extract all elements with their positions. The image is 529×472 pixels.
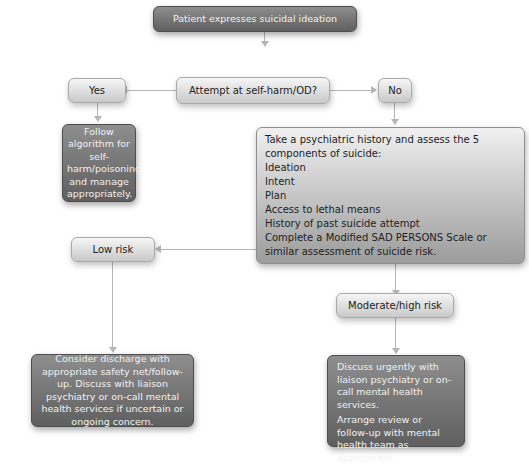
moderate-risk-label: Moderate/high risk: [337, 299, 453, 312]
start-label: Patient expresses suicidal ideation: [154, 13, 356, 26]
decision-node: Attempt at self-harm/OD?: [176, 77, 330, 104]
yes-action-node: Follow algorithm for self-harm/poisoning…: [62, 124, 136, 202]
moderate-risk-node: Moderate/high risk: [336, 293, 454, 318]
low-risk-action-node: Consider discharge with appropriate safe…: [31, 354, 194, 427]
component-past-attempt: History of past suicide attempt: [265, 217, 516, 231]
connector-assessment-moderate: [395, 264, 396, 291]
low-risk-action-text: Consider discharge with appropriate safe…: [40, 353, 185, 428]
yes-node: Yes: [68, 78, 126, 103]
moderate-risk-action-node: Discuss urgently with liaison psychiatry…: [327, 355, 465, 447]
no-node: No: [378, 78, 412, 103]
connector-yes-action: [97, 103, 98, 117]
moderate-action-text-2: Arrange review or follow-up with mental …: [337, 414, 455, 464]
connector-low-action: [112, 262, 113, 348]
arrow-icon: [261, 41, 269, 47]
connector-decision-yes: [126, 90, 176, 91]
component-intent: Intent: [265, 175, 516, 189]
no-label: No: [379, 84, 411, 97]
arrow-icon: [371, 86, 377, 94]
component-plan: Plan: [265, 189, 516, 203]
assessment-intro: Take a psychiatric history and assess th…: [265, 133, 516, 161]
arrow-icon: [94, 116, 102, 122]
start-node: Patient expresses suicidal ideation: [153, 6, 357, 32]
connector-decision-no: [330, 90, 372, 91]
connector-no-assessment: [394, 103, 395, 120]
low-risk-node: Low risk: [71, 237, 155, 262]
connector-assessment-low: [160, 249, 256, 250]
yes-label: Yes: [69, 84, 125, 97]
assessment-node: Take a psychiatric history and assess th…: [256, 127, 525, 264]
decision-label: Attempt at self-harm/OD?: [177, 84, 329, 97]
connector-moderate-action: [395, 318, 396, 349]
component-lethal-means: Access to lethal means: [265, 203, 516, 217]
component-ideation: Ideation: [265, 161, 516, 175]
arrow-icon: [391, 119, 399, 125]
assessment-scale: Complete a Modified SAD PERSONS Scale or…: [265, 231, 516, 259]
arrow-icon: [392, 348, 400, 354]
moderate-action-text-1: Discuss urgently with liaison psychiatry…: [337, 361, 455, 411]
yes-action-text: Follow algorithm for self-harm/poisoning…: [67, 126, 131, 201]
arrow-icon: [155, 245, 161, 253]
low-risk-label: Low risk: [72, 243, 154, 256]
